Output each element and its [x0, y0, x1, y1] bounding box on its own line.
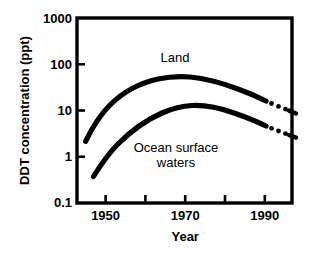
ddt-concentration-line-chart: 1000 100 10 1 0.1 1950 1970 1990 Year DD…	[0, 0, 311, 255]
y-tick-label-1: 1	[65, 149, 72, 164]
x-axis-title: Year	[171, 229, 198, 244]
y-tick-label-0.1: 0.1	[54, 195, 72, 210]
annotation-land: Land	[161, 50, 190, 65]
y-tick-label-10: 10	[58, 103, 72, 118]
y-tick-label-1000: 1000	[43, 11, 72, 26]
annotation-ocean-line2: waters	[156, 155, 196, 170]
x-tick-label-1970: 1970	[171, 208, 200, 223]
x-tick-label-1950: 1950	[91, 208, 120, 223]
y-tick-label-100: 100	[50, 57, 72, 72]
annotation-ocean-line1: Ocean surface	[134, 140, 219, 155]
x-tick-label-1990: 1990	[250, 208, 279, 223]
y-axis-title: DDT concentration (ppt)	[17, 36, 32, 185]
chart-figure: 1000 100 10 1 0.1 1950 1970 1990 Year DD…	[0, 0, 311, 255]
